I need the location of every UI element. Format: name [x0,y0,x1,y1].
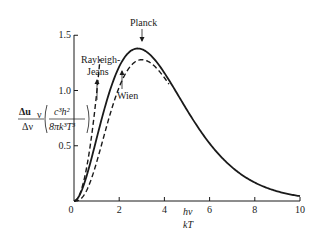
planck-arrowhead [140,37,145,42]
svg-text:Δu: Δu [19,106,31,117]
x-tick-label: 0 [69,204,74,215]
rayleigh-label-1: Rayleigh- [81,54,120,65]
x-tick-label: 4 [162,204,167,215]
wien-label: Wien [117,90,138,101]
rayleigh-arrowhead [95,79,100,84]
svg-text:ν: ν [37,109,42,120]
rayleigh-jeans-curve [74,59,100,201]
y-tick-label: 1.0 [59,85,72,96]
x-tick-label: 10 [295,204,305,215]
y-ticks: 0.51.01.5 [59,29,79,151]
x-tick-label: 6 [207,204,212,215]
svg-text:Δν: Δν [22,121,33,132]
y-tick-label: 0.5 [59,140,72,151]
rayleigh-label-2: Jeans [87,66,109,77]
svg-text:hν: hν [183,206,193,217]
x-tick-label: 8 [252,204,257,215]
svg-text:c³h²: c³h² [54,106,70,117]
y-axis-label: Δu ν Δν c³h² 8πk³T³ [18,105,89,133]
wien-arrowhead [120,70,125,75]
x-axis-label: hν kT [183,206,194,230]
svg-text:8πk³T³: 8πk³T³ [49,121,76,132]
svg-text:kT: kT [183,219,194,230]
y-tick-label: 1.5 [59,29,72,40]
planck-label: Planck [130,17,157,28]
chart: 0.51.01.5 0246810 Planck Rayleigh- Jeans… [0,0,318,234]
wien-curve [74,60,169,201]
x-tick-label: 2 [117,204,122,215]
